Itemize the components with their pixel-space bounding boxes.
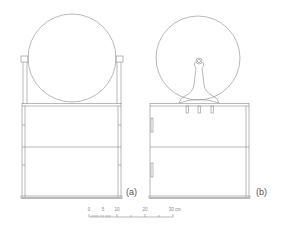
mirror-knob xyxy=(196,58,202,64)
panel-b-drawing xyxy=(149,16,250,199)
panel-a-label: (a) xyxy=(126,187,137,197)
right-bracket xyxy=(116,56,123,62)
scale-tick-30: 30 cm xyxy=(169,207,181,212)
scale-tick-20: 20 xyxy=(142,207,147,212)
scale-bar xyxy=(89,214,173,217)
mirror-stand-diagram xyxy=(0,0,281,234)
mirror-disc-a xyxy=(28,14,116,102)
peg xyxy=(186,106,189,113)
panel-b-label: (b) xyxy=(256,187,267,197)
scale-tick-10: 10 xyxy=(114,207,119,212)
panel-a-drawing xyxy=(21,14,123,199)
left-bracket xyxy=(21,56,28,62)
peg xyxy=(198,106,201,113)
scale-tick-5: 5 xyxy=(102,207,105,212)
stand-a xyxy=(22,104,121,198)
peg xyxy=(211,106,214,113)
mirror-handle xyxy=(179,62,219,103)
scale-tick-0: 0 xyxy=(88,207,91,212)
stand-b xyxy=(150,104,249,198)
